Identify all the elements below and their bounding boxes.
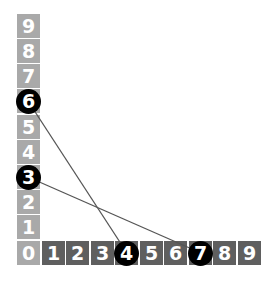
marker-y-6: 6	[16, 89, 41, 114]
marker-x-7: 7	[188, 241, 213, 266]
line-3-to-7	[28, 177, 201, 253]
connection-lines	[0, 0, 277, 282]
marker-y-3: 3	[16, 165, 41, 190]
number-line-diagram: 9 8 7 6 5 4 3 2 1 0 1 2 3 4 5 6 7 8 9 6 …	[0, 0, 277, 282]
marker-x-4: 4	[114, 241, 139, 266]
line-6-to-4	[28, 101, 127, 253]
